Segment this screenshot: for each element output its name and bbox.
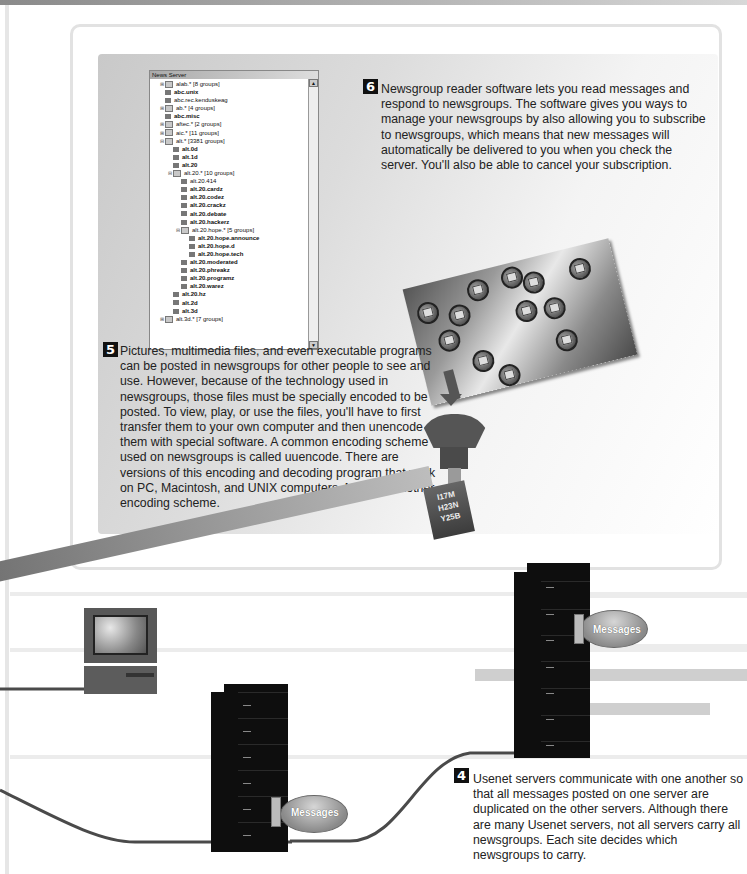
monitor-screen [93,615,148,655]
disk-tab [574,614,584,644]
computer-base [84,666,157,694]
step-4-text: Usenet servers communicate with one anot… [473,772,743,863]
usenet-server-right [527,563,590,758]
disk-tab [271,797,281,827]
floppy-drive [126,673,154,677]
messages-disk-label: Messages [593,624,641,635]
messages-disk-label: Messages [291,807,339,818]
step-4-badge: 4 [454,768,469,783]
network-cables [0,0,747,874]
